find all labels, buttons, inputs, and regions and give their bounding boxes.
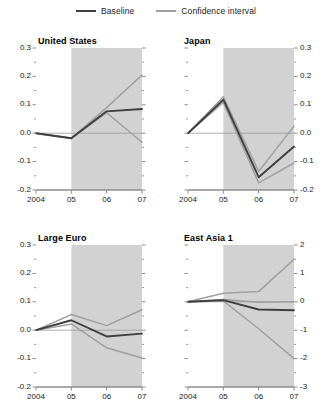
- y-tick-label: -0.1: [0, 353, 31, 362]
- plot-area-top-left: [36, 48, 142, 190]
- y-tick-label: 0.0: [300, 128, 331, 137]
- panel-title-top-right: Japan: [184, 36, 211, 46]
- x-tick-label: 05: [57, 195, 85, 204]
- legend-label-baseline: Baseline: [101, 6, 134, 16]
- y-tick-label: 0.2: [0, 71, 31, 80]
- x-tick-label: 07: [280, 392, 308, 401]
- x-tick-label: 05: [209, 195, 237, 204]
- x-tick-label: 06: [245, 392, 273, 401]
- y-tick-label: -1: [300, 325, 331, 334]
- y-tick-label: 0: [300, 296, 331, 305]
- shaded-forecast-region: [71, 48, 142, 190]
- legend-swatch-confidence-interval: [156, 10, 176, 12]
- y-tick-label: 0.3: [0, 240, 31, 249]
- x-tick-label: 07: [128, 195, 156, 204]
- chart-legend: Baseline Confidence interval: [0, 6, 332, 16]
- x-tick-label: 06: [93, 195, 121, 204]
- y-tick-label: -0.2: [0, 185, 31, 194]
- x-tick-label: 2004: [22, 195, 50, 204]
- x-tick-label: 2004: [174, 392, 202, 401]
- panel-title-bottom-right: East Asia 1: [184, 233, 233, 243]
- y-tick-label: -0.2: [0, 382, 31, 391]
- x-tick-label: 06: [93, 392, 121, 401]
- shaded-forecast-region: [71, 245, 142, 387]
- y-tick-label: 0.0: [0, 325, 31, 334]
- y-tick-label: -0.2: [300, 185, 331, 194]
- x-tick-label: 07: [280, 195, 308, 204]
- y-tick-label: -2: [300, 353, 331, 362]
- x-tick-label: 06: [245, 195, 273, 204]
- panel-title-top-left: United States: [38, 36, 97, 46]
- legend-item-baseline: Baseline: [76, 6, 134, 16]
- y-tick-label: 0.2: [0, 268, 31, 277]
- y-tick-label: 0.1: [0, 296, 31, 305]
- x-tick-label: 2004: [174, 195, 202, 204]
- y-tick-label: 0.3: [0, 43, 31, 52]
- y-tick-label: 0.2: [300, 71, 331, 80]
- shaded-forecast-region: [223, 245, 294, 387]
- x-tick-label: 2004: [22, 392, 50, 401]
- panel-title-bottom-left: Large Euro: [38, 233, 87, 243]
- y-tick-label: 1: [300, 268, 331, 277]
- legend-item-confidence-interval: Confidence interval: [156, 6, 256, 16]
- legend-swatch-baseline: [76, 10, 96, 12]
- y-tick-label: 0.1: [0, 99, 31, 108]
- y-tick-label: 0.0: [0, 128, 31, 137]
- x-tick-label: 05: [57, 392, 85, 401]
- y-tick-label: 0.3: [300, 43, 331, 52]
- figure-four-panel-chart: Baseline Confidence interval United Stat…: [0, 0, 332, 413]
- plot-area-bottom-right: [188, 245, 294, 387]
- y-tick-label: -0.1: [0, 156, 31, 165]
- y-tick-label: 2: [300, 240, 331, 249]
- y-tick-label: -0.1: [300, 156, 331, 165]
- plot-area-top-right: [188, 48, 294, 190]
- y-tick-label: 0.1: [300, 99, 331, 108]
- x-tick-label: 05: [209, 392, 237, 401]
- x-tick-label: 07: [128, 392, 156, 401]
- y-tick-label: -3: [300, 382, 331, 391]
- legend-label-confidence-interval: Confidence interval: [181, 6, 256, 16]
- plot-area-bottom-left: [36, 245, 142, 387]
